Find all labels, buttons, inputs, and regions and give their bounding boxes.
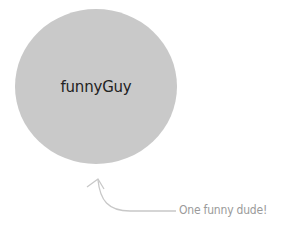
annotation-label: One funny dude! (179, 203, 267, 217)
annotation-arrow-icon (0, 0, 286, 232)
